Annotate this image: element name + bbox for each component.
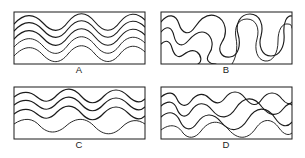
panel-c-group: C bbox=[14, 87, 145, 150]
panel-b-label: B bbox=[223, 64, 230, 75]
panel-b-group: B bbox=[161, 12, 292, 75]
panel-a-label: A bbox=[76, 64, 83, 75]
panel-d-frame bbox=[161, 87, 292, 139]
figure-canvas: A B C D bbox=[0, 0, 305, 158]
panel-a-frame bbox=[14, 12, 145, 64]
panel-c-label: C bbox=[75, 139, 82, 150]
panel-a-group: A bbox=[14, 12, 145, 75]
panel-d-group: D bbox=[161, 87, 292, 150]
panel-d-label: D bbox=[222, 139, 229, 150]
